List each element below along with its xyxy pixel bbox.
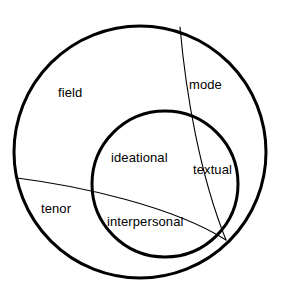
metafunction-circle	[92, 111, 238, 257]
label-field: field	[58, 86, 82, 100]
label-mode: mode	[189, 78, 222, 92]
label-textual: textual	[193, 163, 232, 177]
venn-diagram: field mode ideational textual tenor inte…	[0, 0, 282, 294]
label-interpersonal: interpersonal	[107, 215, 183, 229]
label-ideational: ideational	[111, 151, 168, 165]
venn-diagram-canvas	[0, 0, 282, 294]
label-tenor: tenor	[41, 202, 71, 216]
